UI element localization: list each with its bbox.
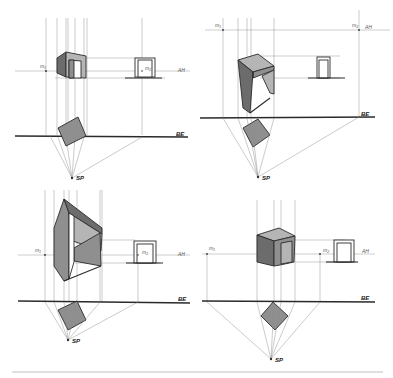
panel-top-left: m₁ m₂ AH BE SP (15, 18, 190, 181)
label-m1: m₁ (40, 63, 46, 69)
label-horizon: AH (361, 248, 369, 254)
ground-line (18, 301, 190, 303)
label-horizon: AH (364, 24, 372, 30)
label-station-point: SP (72, 338, 81, 344)
label-station-point: SP (275, 357, 284, 363)
ground-line (202, 301, 375, 302)
label-horizon: AH (177, 251, 185, 257)
panel-bottom-left: m₁ BE m₂ AH SP (18, 190, 190, 344)
label-m2: m₂ (323, 247, 329, 253)
label-m2: m₂ (142, 249, 148, 255)
label-m2: m₂ (145, 65, 151, 71)
perspective-sketch-sheet: m₁ m₂ AH BE SP m₁ m₂ AH (0, 0, 393, 378)
ground-line (15, 136, 188, 137)
label-horizon: AH (177, 67, 185, 73)
label-m1: m₁ (35, 247, 41, 253)
label-ground-line: BE (178, 296, 187, 302)
label-station-point: SP (76, 175, 85, 181)
ground-line (200, 117, 375, 118)
label-m2: m₂ (352, 22, 358, 28)
label-station-point: SP (262, 175, 271, 181)
panel-top-right: m₁ m₂ AH BE SP (200, 10, 390, 181)
measure-point-m1 (45, 70, 47, 72)
panel-bottom-right: m₁ m₂ AH BE SP (202, 200, 375, 363)
label-ground-line: BE (176, 131, 185, 137)
label-ground-line: BE (361, 295, 370, 301)
label-ground-line: BE (361, 111, 370, 117)
label-m1: m₁ (209, 245, 215, 251)
label-m1: m₁ (215, 22, 221, 28)
